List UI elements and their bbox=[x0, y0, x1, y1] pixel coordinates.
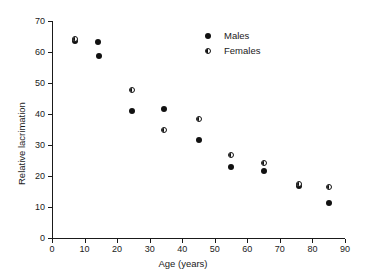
data-point-female bbox=[228, 152, 234, 158]
x-axis-tick bbox=[182, 239, 183, 243]
data-point-male bbox=[96, 53, 102, 59]
x-axis-tick bbox=[345, 239, 346, 243]
x-axis-tick bbox=[150, 239, 151, 243]
x-axis-tick bbox=[117, 239, 118, 243]
legend-marker-female-icon bbox=[205, 48, 211, 54]
x-axis-tick bbox=[312, 239, 313, 243]
y-axis-tick-label: 50 bbox=[23, 79, 45, 88]
x-axis-tick-label: 70 bbox=[268, 245, 292, 254]
x-axis-tick-label: 50 bbox=[203, 245, 227, 254]
x-axis-tick bbox=[85, 239, 86, 243]
x-axis-tick-label: 60 bbox=[235, 245, 259, 254]
y-axis-tick-label: 10 bbox=[23, 203, 45, 212]
x-axis-tick-label: 0 bbox=[40, 245, 64, 254]
x-axis-tick-label: 90 bbox=[333, 245, 357, 254]
x-axis-tick-label: 40 bbox=[170, 245, 194, 254]
x-axis-tick-label: 30 bbox=[138, 245, 162, 254]
legend-marker-half-fill bbox=[206, 49, 208, 53]
x-axis-tick bbox=[247, 239, 248, 243]
data-point-male bbox=[129, 108, 135, 114]
data-point-male bbox=[228, 164, 234, 170]
x-axis-tick-label: 80 bbox=[300, 245, 324, 254]
data-point-female bbox=[326, 184, 332, 190]
scatter-chart: 0102030405060700102030405060708090 Age (… bbox=[0, 0, 366, 273]
y-axis-tick-label: 0 bbox=[23, 234, 45, 243]
data-point-female bbox=[72, 36, 78, 42]
chart-legend: MalesFemales bbox=[205, 28, 260, 58]
data-point-male bbox=[261, 168, 267, 174]
x-axis-tick bbox=[280, 239, 281, 243]
y-axis-tick-label: 60 bbox=[23, 48, 45, 57]
data-point-female bbox=[261, 160, 267, 166]
legend-item-label: Females bbox=[224, 45, 260, 56]
legend-item-label: Males bbox=[224, 30, 249, 41]
y-axis-title: Relative lacrimation bbox=[16, 102, 27, 185]
data-point-male bbox=[196, 137, 202, 143]
data-point-male bbox=[95, 39, 101, 45]
legend-item: Males bbox=[205, 28, 260, 43]
data-point-female bbox=[196, 116, 202, 122]
x-axis-title: Age (years) bbox=[0, 258, 366, 269]
data-point-female bbox=[129, 87, 135, 93]
x-axis-tick-label: 10 bbox=[73, 245, 97, 254]
legend-marker-male-icon bbox=[205, 33, 211, 39]
x-axis-line bbox=[52, 238, 345, 239]
legend-item: Females bbox=[205, 43, 260, 58]
data-point-male bbox=[326, 200, 332, 206]
y-axis-tick-label: 70 bbox=[23, 17, 45, 26]
x-axis-tick bbox=[215, 239, 216, 243]
x-axis-tick-label: 20 bbox=[105, 245, 129, 254]
x-axis-tick bbox=[52, 239, 53, 243]
